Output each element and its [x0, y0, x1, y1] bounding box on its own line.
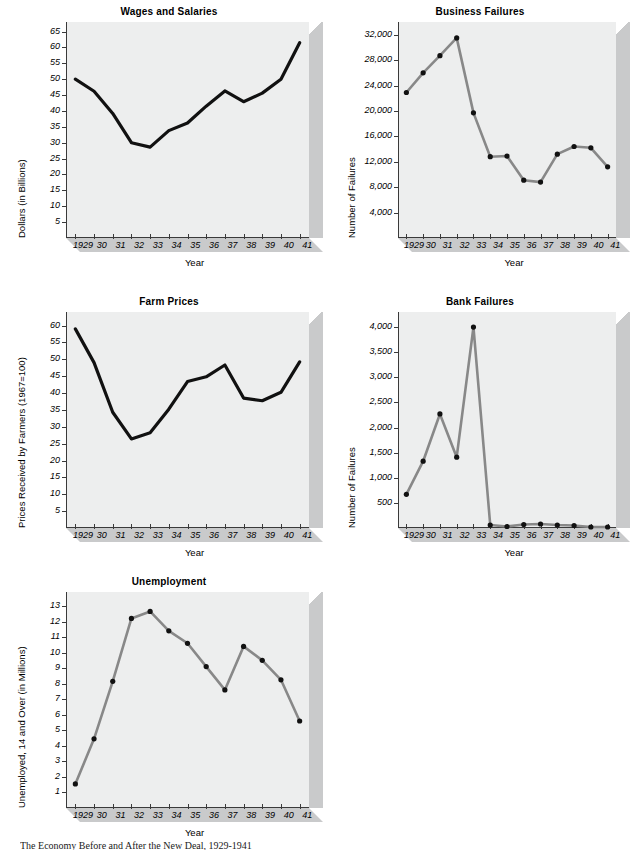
- chart-plot-wages-and-salaries: 5101520253035404550556065192930313233343…: [14, 6, 331, 286]
- y-axis-tick: [394, 428, 399, 429]
- x-axis-tick: [94, 524, 95, 529]
- y-axis-tick: [62, 761, 67, 762]
- y-axis-tick: [62, 143, 67, 144]
- x-axis-tick: [591, 524, 592, 529]
- chart-panel-unemployment: Unemployment 123456789101112131929303132…: [14, 576, 324, 850]
- y-axis-tick: [394, 453, 399, 454]
- y-axis-tick-label: 65: [20, 27, 60, 36]
- x-axis-title: Year: [66, 257, 323, 268]
- y-axis-tick: [62, 668, 67, 669]
- x-axis-tick-label: 30: [95, 811, 109, 820]
- x-axis-tick: [300, 234, 301, 239]
- x-axis-tick-label: 37: [226, 531, 240, 540]
- x-axis-tick: [188, 524, 189, 529]
- x-axis-tick-label: 35: [508, 531, 522, 540]
- x-axis-tick: [300, 524, 301, 529]
- x-axis-title: Year: [66, 547, 323, 558]
- y-axis-tick-label: 13: [20, 601, 60, 610]
- y-axis-tick: [62, 111, 67, 112]
- y-axis-tick: [394, 187, 399, 188]
- y-axis-tick-label: 4,000: [352, 322, 392, 331]
- y-axis-tick: [62, 127, 67, 128]
- x-axis-tick: [169, 524, 170, 529]
- x-axis-tick-label: 38: [558, 241, 572, 250]
- y-axis-tick: [62, 342, 67, 343]
- x-axis-tick: [188, 234, 189, 239]
- x-axis-tick: [75, 524, 76, 529]
- x-axis-tick-label: 1929: [402, 241, 426, 250]
- x-axis-tick-label: 31: [441, 241, 455, 250]
- y-axis-tick: [62, 777, 67, 778]
- x-axis-tick: [169, 234, 170, 239]
- x-axis-tick: [206, 234, 207, 239]
- x-axis-tick-label: 31: [113, 241, 127, 250]
- x-axis-tick-label: 30: [95, 531, 109, 540]
- y-axis-tick: [394, 377, 399, 378]
- x-axis-tick-label: 35: [188, 241, 202, 250]
- x-axis-tick-label: 39: [575, 531, 589, 540]
- plot-depth-right: [309, 606, 323, 808]
- chart-plot-unemployment: 1234567891011121319293031323334353637383…: [14, 576, 331, 850]
- y-axis-tick: [62, 190, 67, 191]
- x-axis-tick: [281, 234, 282, 239]
- y-axis-tick: [394, 162, 399, 163]
- x-axis-tick: [244, 524, 245, 529]
- x-axis-tick-label: 34: [491, 241, 505, 250]
- x-axis-tick-label: 38: [558, 531, 572, 540]
- y-axis-tick-label: 20,000: [352, 106, 392, 115]
- y-axis-tick: [394, 35, 399, 36]
- x-axis-tick-label: 32: [132, 531, 146, 540]
- x-axis-tick: [131, 524, 132, 529]
- x-axis-tick: [423, 524, 424, 529]
- y-axis-tick: [62, 95, 67, 96]
- y-axis-tick: [62, 159, 67, 160]
- y-axis-tick-label: 30: [20, 138, 60, 147]
- y-axis-title: Prices Received by Farmers (1967=100): [16, 357, 27, 528]
- x-axis-tick: [473, 234, 474, 239]
- y-axis-tick: [62, 79, 67, 80]
- x-axis-tick-label: 1929: [71, 531, 95, 540]
- x-axis-tick: [591, 234, 592, 239]
- plot-depth-right: [309, 326, 323, 528]
- x-axis-tick-label: 39: [263, 811, 277, 820]
- y-axis-tick: [62, 684, 67, 685]
- x-axis-tick: [94, 234, 95, 239]
- x-axis-tick: [574, 524, 575, 529]
- y-axis-tick: [62, 376, 67, 377]
- x-axis-tick: [608, 234, 609, 239]
- y-axis-tick-label: 40: [20, 106, 60, 115]
- plot-depth-bevel: [309, 592, 323, 606]
- y-axis-tick: [62, 699, 67, 700]
- y-axis-tick: [394, 503, 399, 504]
- x-axis-tick: [75, 234, 76, 239]
- x-axis-tick-label: 37: [541, 531, 555, 540]
- x-axis-tick-label: 33: [151, 531, 165, 540]
- y-axis-tick: [62, 444, 67, 445]
- plot-area: [398, 312, 616, 528]
- plot-depth-right: [309, 36, 323, 238]
- y-axis-tick: [62, 746, 67, 747]
- chart-panel-business-failures: Business Failures 4,0008,00012,00016,000…: [330, 6, 630, 286]
- x-axis-tick-label: 32: [132, 811, 146, 820]
- y-axis-tick-label: 12: [20, 617, 60, 626]
- y-axis-tick-label: 3,000: [352, 372, 392, 381]
- x-axis-tick-label: 31: [113, 531, 127, 540]
- x-axis-tick-label: 34: [170, 241, 184, 250]
- x-axis-tick-label: 38: [244, 241, 258, 250]
- x-axis-tick: [281, 804, 282, 809]
- x-axis-tick: [262, 804, 263, 809]
- x-axis-tick: [244, 804, 245, 809]
- x-axis-tick-label: 40: [592, 531, 606, 540]
- x-axis-tick: [406, 524, 407, 529]
- y-axis-tick-label: 16,000: [352, 131, 392, 140]
- x-axis-tick-label: 36: [524, 241, 538, 250]
- chart-plot-bank-failures: 5001,0001,5002,0002,5003,0003,5004,00019…: [330, 296, 638, 576]
- x-axis-tick-label: 32: [457, 531, 471, 540]
- x-axis-tick: [507, 234, 508, 239]
- x-axis-tick: [608, 524, 609, 529]
- plot-depth-bevel: [616, 22, 630, 36]
- x-axis-tick-label: 33: [474, 531, 488, 540]
- plot-depth-right: [616, 36, 630, 238]
- y-axis-tick: [394, 327, 399, 328]
- plot-area: [66, 312, 309, 528]
